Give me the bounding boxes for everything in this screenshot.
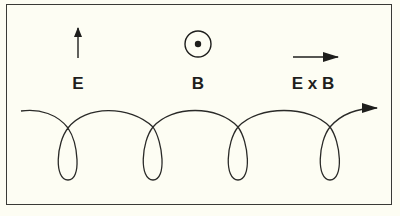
particle-trajectory-curve xyxy=(21,108,377,180)
e-field-label: E xyxy=(72,74,83,93)
exb-drift-diagram: E B E x B xyxy=(0,0,400,216)
b-field-out-of-page-icon xyxy=(185,31,211,57)
b-field-label: B xyxy=(192,74,204,93)
exb-drift-label: E x B xyxy=(292,74,335,93)
